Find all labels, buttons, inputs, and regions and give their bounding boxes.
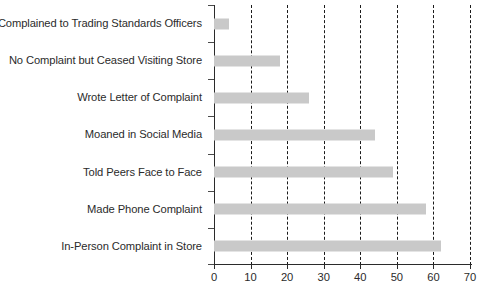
y-axis-label-3: Moaned in Social Media [85,116,202,153]
y-axis-label-5: Made Phone Complaint [87,191,202,228]
bar-in-person-complaint-in-store[interactable] [214,241,441,252]
x-axis-tick-label-0: 0 [211,271,217,283]
x-axis-tick-label-30: 30 [317,271,329,283]
bar-told-peers-face-to-face[interactable] [214,167,393,178]
x-axis-tick [287,264,288,269]
bar-wrote-letter-of-complaint[interactable] [214,92,309,103]
y-axis-label-2: Wrote Letter of Complaint [77,79,202,116]
x-axis-tick [470,264,471,269]
y-axis-category-labels: Complained to Trading Standards Officers… [0,5,208,265]
x-axis-tick-label-20: 20 [281,271,293,283]
bar-moaned-in-social-media[interactable] [214,129,375,140]
bar-row [214,191,470,228]
x-axis-tick [251,264,252,269]
bar-chart: Complained to Trading Standards Officers… [0,0,488,302]
gridline-70 [470,5,471,265]
x-axis-tick [324,264,325,269]
x-axis-tick [360,264,361,269]
y-axis-label-6: In-Person Complaint in Store [61,228,202,265]
bar-row [214,42,470,79]
x-axis-tick-label-60: 60 [427,271,439,283]
y-axis-label-0: Complained to Trading Standards Officers [0,5,202,42]
bar-row [214,116,470,153]
x-axis-tick-label-10: 10 [244,271,256,283]
bar-row [214,79,470,116]
bar-complained-to-trading-standards-officers[interactable] [214,18,229,29]
bar-row [214,228,470,265]
x-axis-tick-label-70: 70 [464,271,476,283]
bar-row [214,5,470,42]
x-axis-tick-label-40: 40 [354,271,366,283]
y-axis-label-1: No Complaint but Ceased Visiting Store [9,42,202,79]
plot-area [214,5,470,265]
x-axis-tick [433,264,434,269]
bars-layer [214,5,470,265]
bar-no-complaint-but-ceased-visiting-store[interactable] [214,55,280,66]
x-axis-tick [397,264,398,269]
y-axis-label-4: Told Peers Face to Face [83,154,202,191]
bar-made-phone-complaint[interactable] [214,204,426,215]
x-axis-tick [214,264,215,269]
bar-row [214,154,470,191]
x-axis-tick-label-50: 50 [391,271,403,283]
